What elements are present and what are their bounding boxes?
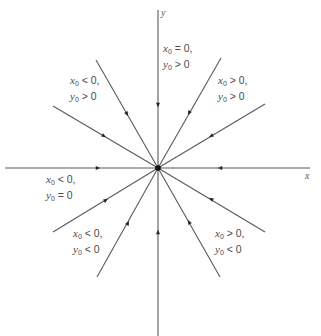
region-label-x0-lt-0-y0-gt-0: x0 < 0,y0 > 0 — [70, 74, 100, 106]
condition-x: x0 < 0, — [70, 74, 100, 90]
trajectory-upper-left-shallow — [53, 106, 158, 168]
x-axis-label: x — [305, 170, 309, 181]
condition-x: x0 < 0, — [46, 173, 76, 189]
trajectory-lower-right-shallow — [158, 168, 265, 232]
condition-y: y0 < 0 — [73, 243, 103, 259]
condition-x: x0 < 0, — [73, 227, 103, 243]
origin-node — [155, 165, 161, 171]
trajectory-lower-right-steep — [158, 168, 220, 277]
condition-y: y0 > 0 — [163, 58, 193, 74]
y-axis-label: y — [161, 7, 165, 18]
phase-portrait-diagram: y x x0 = 0,y0 > 0x0 < 0,y0 > 0x0 > 0,y0 … — [0, 0, 321, 336]
condition-x: x0 > 0, — [215, 227, 245, 243]
phase-portrait-svg — [0, 0, 321, 336]
arrowhead-icon — [218, 166, 223, 170]
region-label-x0-lt-0-y0-eq-0: x0 < 0,y0 = 0 — [46, 173, 76, 205]
arrowhead-icon — [96, 166, 101, 170]
condition-y: y0 = 0 — [46, 189, 76, 205]
trajectory-positive-y-axis — [156, 10, 160, 168]
region-label-x0-gt-0-y0-gt-0: x0 > 0,y0 > 0 — [218, 74, 248, 106]
arrowhead-icon — [156, 103, 160, 108]
region-label-x0-eq-0-y0-gt-0: x0 = 0,y0 > 0 — [163, 42, 193, 74]
condition-y: y0 < 0 — [215, 243, 245, 259]
trajectory-negative-x-axis — [5, 166, 158, 170]
arrowhead-icon — [156, 230, 160, 235]
region-label-x0-gt-0-y0-lt-0: x0 > 0,y0 < 0 — [215, 227, 245, 259]
trajectory-upper-right-steep — [158, 58, 221, 168]
trajectory-upper-right-shallow — [158, 104, 265, 168]
trajectory-positive-x-axis — [158, 166, 310, 170]
condition-y: y0 > 0 — [70, 90, 100, 106]
region-label-x0-lt-0-y0-lt-0: x0 < 0,y0 < 0 — [73, 227, 103, 259]
condition-x: x0 > 0, — [218, 74, 248, 90]
condition-y: y0 > 0 — [218, 90, 248, 106]
condition-x: x0 = 0, — [163, 42, 193, 58]
trajectory-negative-y-axis — [156, 168, 160, 336]
trajectory-lower-left-steep — [97, 168, 158, 277]
trajectory-upper-left-steep — [96, 60, 158, 168]
